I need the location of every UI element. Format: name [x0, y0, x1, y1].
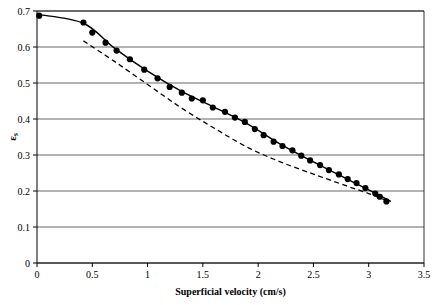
x-axis-tick-label: 1.5: [197, 269, 210, 280]
x-axis-tick-label: 1: [145, 269, 150, 280]
y-axis-tick-label: 0.2: [18, 186, 31, 197]
x-axis-tick-label: 0.5: [86, 269, 99, 280]
scatter-plot: 00.10.20.30.40.50.60.700.511.522.533.5Su…: [0, 0, 437, 305]
x-axis-title: Superficial velocity (cm/s): [175, 286, 286, 298]
y-axis-title-subscript: s: [11, 133, 20, 136]
y-axis-tick-label: 0.6: [18, 42, 31, 53]
y-axis-tick-label: 0.3: [18, 150, 31, 161]
y-axis-tick-label: 0.1: [18, 222, 31, 233]
y-axis-tick-label: 0.5: [18, 78, 31, 89]
x-axis-tick-label: 3: [366, 269, 371, 280]
y-axis-tick-label: 0: [25, 258, 30, 269]
x-axis-tick-label: 2.5: [307, 269, 320, 280]
y-axis-tick-label: 0.4: [18, 114, 31, 125]
x-axis-tick-label: 2: [256, 269, 261, 280]
y-axis-title-text: εs: [6, 133, 20, 141]
y-axis-title: εs: [6, 133, 20, 141]
y-axis-tick-label: 0.7: [18, 6, 31, 17]
chart-container: 00.10.20.30.40.50.60.700.511.522.533.5Su…: [0, 0, 437, 305]
data-point-marker: [36, 13, 42, 19]
x-axis-tick-label: 3.5: [418, 269, 431, 280]
x-axis-tick-label: 0: [35, 269, 40, 280]
plot-background: [37, 11, 424, 263]
